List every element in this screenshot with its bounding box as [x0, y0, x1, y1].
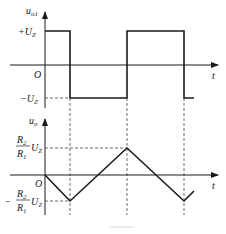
top-plot: uo1 +UZ O t −UZ — [10, 5, 218, 108]
svg-text:−: − — [5, 196, 11, 207]
waveform-diagram: uo1 +UZ O t −UZ uo R2 R1 — [0, 0, 226, 234]
peak-level-label: R2 R1 UZ — [16, 134, 42, 161]
low-level-label: −UZ — [20, 93, 38, 106]
trough-level-label: − R2 R1 UZ — [5, 188, 42, 215]
svg-text:UZ: UZ — [31, 196, 42, 209]
bottom-x-label: t — [212, 180, 215, 191]
top-x-label: t — [212, 70, 215, 81]
bottom-y-label: uo — [29, 115, 38, 128]
faint-caption — [110, 226, 134, 228]
transition-guides — [70, 98, 184, 215]
svg-text:R2: R2 — [16, 134, 27, 147]
top-y-label: uo1 — [26, 5, 38, 18]
svg-text:R1: R1 — [16, 148, 27, 161]
svg-text:R1: R1 — [16, 202, 27, 215]
bottom-origin-label: O — [35, 178, 42, 189]
high-level-label: +UZ — [18, 26, 36, 39]
top-origin-label: O — [34, 69, 41, 80]
bottom-plot: uo R2 R1 UZ O t − R2 R1 UZ — [5, 115, 218, 215]
svg-text:UZ: UZ — [31, 142, 42, 155]
svg-text:R2: R2 — [16, 188, 27, 201]
